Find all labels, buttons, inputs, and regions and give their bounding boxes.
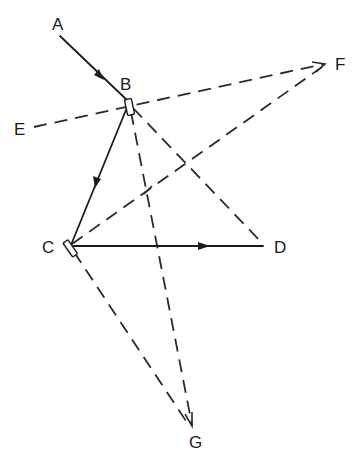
ray-a-b [60,36,129,102]
label-g: G [189,433,202,452]
arrowhead-g-icon [185,412,192,426]
label-b: B [120,75,131,94]
mirror-b [124,98,134,115]
intersection-tick [144,186,152,194]
arrowhead-f-icon [312,62,325,72]
label-d: D [274,238,286,257]
label-f: F [335,55,345,74]
dashed-line-c-f [72,67,322,244]
label-c: C [42,238,54,257]
label-a: A [52,15,64,34]
label-e: E [14,120,25,139]
dashed-line-c-g [74,252,188,424]
arrowhead-c-d-icon [198,242,210,250]
ray-b-c [71,105,128,245]
ray-diagram: A B C D E F G [0,0,358,476]
